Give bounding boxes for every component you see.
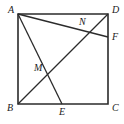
- point-label-f: F: [111, 31, 119, 42]
- point-label-a: A: [7, 4, 15, 15]
- point-label-e: E: [58, 106, 65, 117]
- point-label-b: B: [7, 102, 13, 113]
- geometry-canvas: A D B C E F M N: [0, 0, 124, 124]
- segment-b-to-d: [18, 14, 108, 104]
- segment-a-to-f: [18, 14, 108, 37]
- geometry-figure: A D B C E F M N: [0, 0, 124, 124]
- point-label-d: D: [111, 4, 120, 15]
- point-label-c: C: [112, 102, 119, 113]
- point-label-n: N: [78, 16, 87, 27]
- segment-a-to-e: [18, 14, 62, 104]
- point-label-m: M: [33, 62, 43, 73]
